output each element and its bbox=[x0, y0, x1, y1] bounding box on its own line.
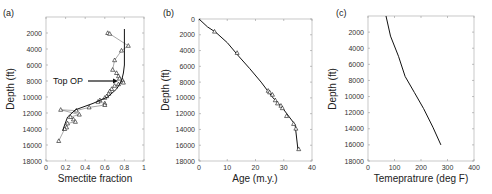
y-tick-label: 8000 bbox=[348, 77, 364, 84]
panel-c-ylabel: Depth (ft) bbox=[327, 68, 338, 110]
panel-b-xlabel: Age (m.y.) bbox=[232, 173, 277, 184]
x-tick-label: 0.2 bbox=[61, 164, 71, 171]
series-line-temperature bbox=[386, 16, 441, 145]
triangle-marker bbox=[111, 68, 115, 72]
y-tick-label: 10000 bbox=[345, 93, 365, 100]
y-tick-label: 6000 bbox=[179, 63, 195, 70]
y-tick-label: 14000 bbox=[23, 126, 43, 133]
x-tick-label: 30 bbox=[280, 164, 288, 171]
panel-c-xlabel: Temepratrure (deg F) bbox=[374, 173, 468, 184]
y-tick-label: 4000 bbox=[26, 46, 42, 53]
y-tick-label: 10000 bbox=[23, 94, 43, 101]
triangle-marker bbox=[294, 126, 298, 130]
panel-a-smectite-chart: 00.20.40.60.8120004000600080001000012000… bbox=[23, 17, 147, 171]
triangle-marker bbox=[59, 108, 63, 112]
x-tick-label: 0 bbox=[44, 164, 48, 171]
arrowhead-icon bbox=[113, 79, 118, 84]
panel-a-xlabel: Smectite fraction bbox=[58, 173, 132, 184]
y-tick-label: 16000 bbox=[176, 142, 196, 149]
x-tick-label: 0 bbox=[197, 164, 201, 171]
y-tick-label: 18000 bbox=[23, 158, 43, 165]
panel-b-label: (b) bbox=[163, 8, 174, 18]
x-tick-label: 40 bbox=[308, 164, 316, 171]
top-op-annotation: Top OP bbox=[53, 76, 83, 86]
x-tick-label: 300 bbox=[442, 164, 454, 171]
y-tick-label: 4000 bbox=[348, 45, 364, 52]
x-tick-label: 1 bbox=[142, 164, 146, 171]
x-tick-label: 20 bbox=[252, 164, 260, 171]
y-tick-label: 18000 bbox=[345, 158, 365, 165]
y-tick-label: 14000 bbox=[176, 126, 196, 133]
x-tick-label: 0.8 bbox=[120, 164, 130, 171]
y-tick-label: 0 bbox=[191, 16, 195, 23]
y-tick-label: 2000 bbox=[26, 30, 42, 37]
x-tick-label: 400 bbox=[468, 164, 480, 171]
y-tick-label: 2000 bbox=[348, 29, 364, 36]
panel-c-label: (c) bbox=[336, 8, 347, 18]
x-tick-label: 200 bbox=[415, 164, 427, 171]
triangle-marker bbox=[126, 44, 130, 48]
triangle-marker bbox=[213, 29, 217, 33]
y-tick-label: 10000 bbox=[176, 94, 196, 101]
y-tick-label: 8000 bbox=[26, 78, 42, 85]
y-tick-label: 18000 bbox=[176, 158, 196, 165]
triangle-marker bbox=[115, 71, 119, 75]
x-tick-label: 10 bbox=[223, 164, 231, 171]
figure: 00.20.40.60.8120004000600080001000012000… bbox=[0, 0, 492, 194]
panel-b-ylabel: Depth (ft) bbox=[160, 69, 171, 111]
panel-b-age-chart: 0102030400200040006000800010000120001400… bbox=[176, 16, 316, 172]
plot-frame bbox=[368, 16, 474, 161]
plot-frame bbox=[199, 19, 312, 161]
panel-c-temperature-chart: 0100200300400200040006000800010000120001… bbox=[345, 16, 480, 171]
y-tick-label: 12000 bbox=[345, 109, 365, 116]
y-tick-label: 6000 bbox=[26, 62, 42, 69]
x-tick-label: 0 bbox=[366, 164, 370, 171]
y-tick-label: 16000 bbox=[23, 142, 43, 149]
panel-a-label: (a) bbox=[3, 8, 14, 18]
triangle-marker bbox=[292, 122, 296, 126]
y-tick-label: 12000 bbox=[176, 110, 196, 117]
triangle-marker bbox=[57, 139, 61, 143]
y-tick-label: 6000 bbox=[348, 61, 364, 68]
y-tick-label: 14000 bbox=[345, 125, 365, 132]
y-tick-label: 12000 bbox=[23, 110, 43, 117]
y-tick-label: 4000 bbox=[179, 47, 195, 54]
y-tick-label: 2000 bbox=[179, 31, 195, 38]
y-tick-label: 16000 bbox=[345, 141, 365, 148]
panel-a-ylabel: Depth (ft) bbox=[5, 68, 16, 110]
series-line-model bbox=[199, 19, 298, 149]
plot-frame bbox=[46, 17, 144, 161]
y-tick-label: 8000 bbox=[179, 79, 195, 86]
x-tick-label: 0.6 bbox=[100, 164, 110, 171]
x-tick-label: 100 bbox=[389, 164, 401, 171]
x-tick-label: 0.4 bbox=[80, 164, 90, 171]
triangle-marker bbox=[119, 48, 123, 52]
